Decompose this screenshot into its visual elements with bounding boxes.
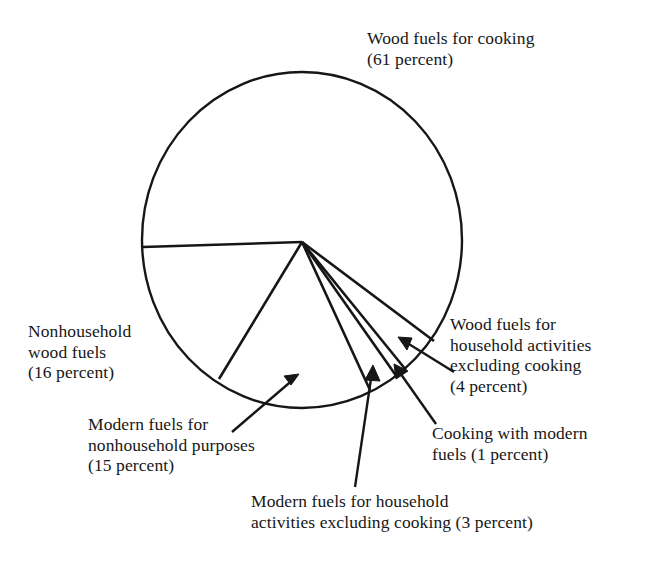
label-wood-fuels-household-excluding-cooking: Wood fuels for household activities excl… bbox=[450, 314, 592, 397]
label-cooking-with-modern-fuels: Cooking with modern fuels (1 percent) bbox=[432, 423, 588, 464]
pie-chart-figure: Wood fuels for cooking (61 percent) Nonh… bbox=[0, 0, 655, 563]
pie-chart-svg bbox=[0, 0, 655, 563]
label-wood-fuels-for-cooking: Wood fuels for cooking (61 percent) bbox=[367, 28, 535, 69]
pie-outline bbox=[142, 72, 462, 408]
arrow-cooking-modern bbox=[394, 364, 436, 424]
label-modern-fuels-nonhousehold-purposes: Modern fuels for nonhousehold purposes (… bbox=[88, 414, 255, 476]
label-modern-fuels-household-excluding-cooking: Modern fuels for household activities ex… bbox=[251, 491, 533, 532]
label-nonhousehold-wood-fuels: Nonhousehold wood fuels (16 percent) bbox=[28, 321, 131, 383]
pie-circle-group bbox=[142, 72, 462, 408]
